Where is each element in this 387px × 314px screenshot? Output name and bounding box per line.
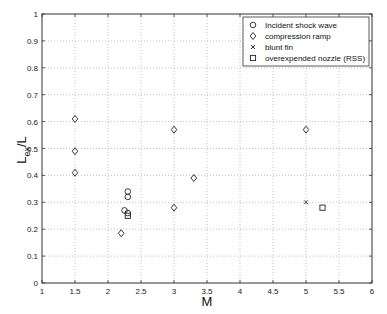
y-tick-label: 0.1	[27, 252, 39, 261]
legend-entry-label: Incident shock wave	[265, 21, 338, 30]
data-points	[72, 115, 325, 236]
legend-entry-label: compression ramp	[265, 32, 331, 41]
x-tick-label: 1.5	[69, 287, 81, 296]
x-tick-label: 1	[40, 287, 45, 296]
scatter-chart: 11.522.533.544.555.5600.10.20.30.40.50.6…	[0, 0, 387, 314]
y-tick-label: 0.7	[27, 91, 39, 100]
y-label-tail: /L	[14, 136, 29, 147]
y-tick-label: 0.6	[27, 118, 39, 127]
x-tick-label: 5	[304, 287, 309, 296]
data-point-diamond	[118, 230, 124, 237]
y-tick-label: 0.4	[27, 171, 39, 180]
legend-entry-label: overexpended nozzle (RSS)	[265, 54, 365, 63]
y-label-sub: ex	[22, 147, 32, 157]
data-point-diamond	[171, 126, 177, 133]
data-point-diamond	[303, 126, 309, 133]
x-axis-label: M	[202, 294, 213, 309]
y-tick-label: 0.2	[27, 225, 39, 234]
x-tick-label: 4.5	[267, 287, 279, 296]
x-tick-label: 3	[172, 287, 177, 296]
x-tick-label: 4	[238, 287, 243, 296]
data-point-square	[320, 205, 325, 210]
svg-text:Lex/L: Lex/L	[14, 136, 32, 164]
y-tick-label: 0.8	[27, 64, 39, 73]
x-tick-label: 6	[370, 287, 375, 296]
legend-entry-label: blunt fin	[265, 43, 293, 52]
x-tick-label: 2.5	[135, 287, 147, 296]
y-tick-label: 1	[34, 10, 39, 19]
data-point-circle	[125, 189, 131, 195]
y-tick-label: 0.3	[27, 198, 39, 207]
y-tick-label: 0.9	[27, 37, 39, 46]
data-point-circle	[125, 194, 131, 200]
x-tick-label: 2	[106, 287, 111, 296]
y-tick-label: 0	[34, 279, 39, 288]
legend: Incident shock wavecompression rampblunt…	[243, 17, 369, 66]
y-axis-label: Lex/L	[14, 136, 32, 164]
y-label-main: L	[14, 157, 29, 164]
x-tick-label: 5.5	[333, 287, 345, 296]
data-point-diamond	[171, 204, 177, 211]
